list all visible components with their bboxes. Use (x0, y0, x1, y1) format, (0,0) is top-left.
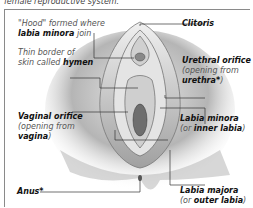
label-labia-minora: Labia minora (or inner labia) (180, 114, 245, 134)
label-hymen: Thin border of skin called hymen (18, 48, 93, 68)
label-hood: "Hood" formed where labia minora join (18, 19, 105, 39)
label-labia-majora: Labia majora (or outer labia) (180, 186, 246, 206)
label-clitoris: Clitoris (182, 19, 214, 29)
label-urethral-orifice: Urethral orifice (opening from urethra*) (182, 56, 251, 86)
label-vaginal-orifice: Vaginal orifice (opening from vagina) (18, 112, 83, 142)
label-anus: Anus* (17, 187, 44, 197)
